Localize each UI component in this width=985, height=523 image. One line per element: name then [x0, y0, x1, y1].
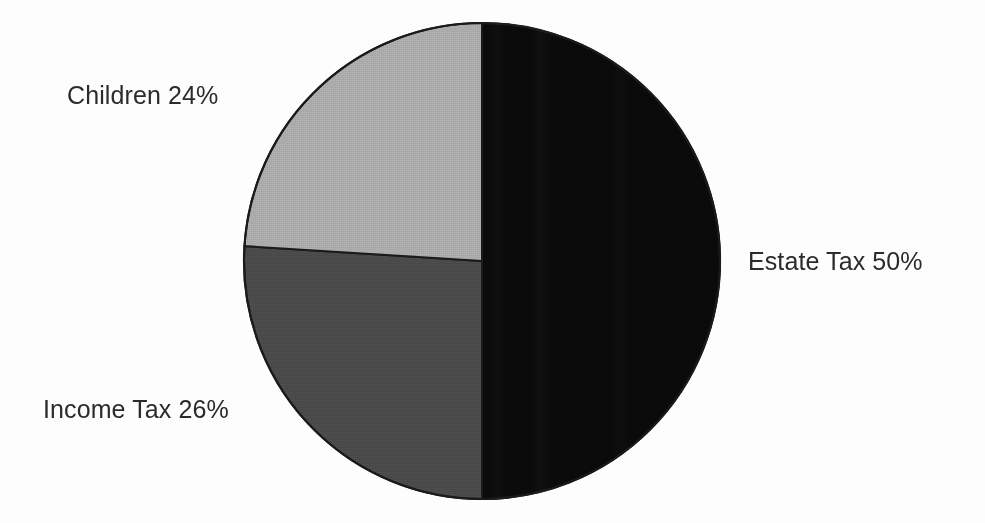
pie-slice-income-tax[interactable]	[244, 246, 482, 499]
pie-label-children: Children 24%	[67, 83, 218, 108]
pie-chart-figure: Children 24% Income Tax 26% Estate Tax 5…	[0, 0, 985, 523]
pie-slice-children[interactable]	[244, 23, 482, 261]
pie-slice-estate-tax[interactable]	[482, 23, 720, 499]
pie-chart-graphic	[242, 21, 722, 501]
pie-label-estate-tax: Estate Tax 50%	[748, 249, 923, 274]
pie-label-income-tax: Income Tax 26%	[43, 397, 229, 422]
pie-svg	[242, 21, 722, 501]
